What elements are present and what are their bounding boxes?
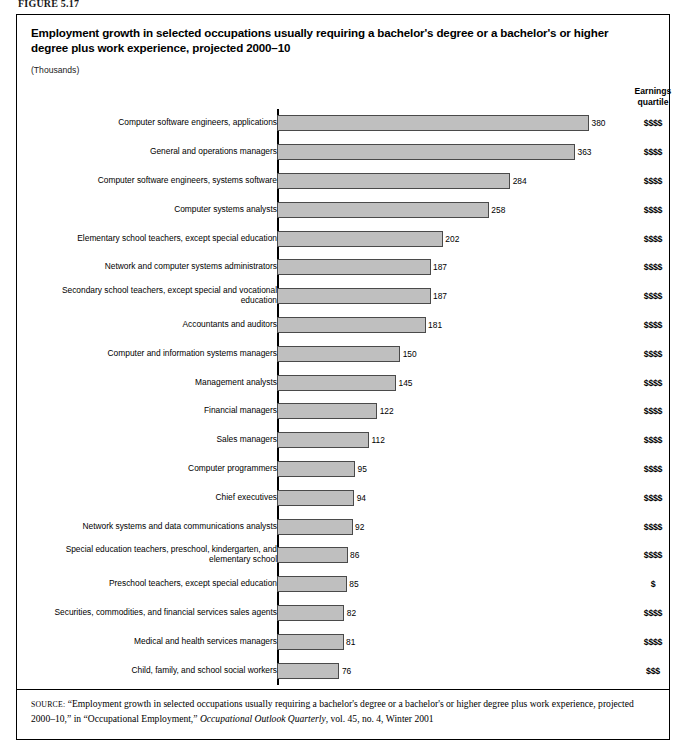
bar-wrapper: 145 (277, 375, 396, 391)
bar-value-label: 85 (349, 579, 358, 589)
bar (277, 432, 369, 448)
earnings-quartile-value: $$$$ (623, 291, 683, 301)
bar (277, 346, 400, 362)
bar-category-label: Accountants and auditors (27, 320, 277, 330)
bar-wrapper: 181 (277, 317, 426, 333)
chart-row: Computer programmers95$$$$ (17, 455, 671, 484)
bar-wrapper: 76 (277, 663, 339, 679)
earnings-quartile-value: $$$$ (623, 522, 683, 532)
chart-row: Computer software engineers, systems sof… (17, 167, 671, 196)
bar-wrapper: 82 (277, 605, 344, 621)
bar-wrapper: 112 (277, 432, 369, 448)
chart-row-inner: Financial managers122$$$$ (17, 397, 671, 426)
bar-wrapper: 202 (277, 231, 443, 247)
bar-category-label: Computer programmers (27, 464, 277, 474)
chart-row-inner: Special education teachers, preschool, k… (17, 541, 671, 570)
chart-row-inner: Computer and information systems manager… (17, 339, 671, 368)
chart-row-inner: Computer software engineers, systems sof… (17, 167, 671, 196)
bar (277, 317, 426, 333)
bar-value-label: 187 (433, 262, 447, 272)
chart-row: General and operations managers363$$$$ (17, 138, 671, 167)
earnings-quartile-value: $$$$ (623, 262, 683, 272)
figure-number-label: FIGURE 5.17 (18, 0, 79, 8)
bar (277, 202, 489, 218)
earnings-quartile-value: $$$$ (623, 550, 683, 560)
earnings-quartile-value: $$$$ (623, 234, 683, 244)
earnings-quartile-value: $ (623, 579, 683, 589)
bar-wrapper: 122 (277, 403, 377, 419)
bar (277, 231, 443, 247)
chart-row: Computer software engineers, application… (17, 109, 671, 138)
bar (277, 375, 396, 391)
source-note-journal: Occupational Outlook Quarterly (200, 713, 326, 724)
bar-value-label: 258 (491, 205, 505, 215)
bar-value-label: 81 (346, 637, 355, 647)
bar-wrapper: 94 (277, 490, 354, 506)
bar-category-label: Special education teachers, preschool, k… (27, 546, 277, 565)
bar-wrapper: 258 (277, 202, 489, 218)
source-note-text-part2: , vol. 45, no. 4, Winter 2001 (326, 713, 434, 724)
earnings-quartile-value: $$$ (623, 666, 683, 676)
bar-chart-plot-area: Computer software engineers, application… (17, 109, 671, 685)
bar-wrapper: 380 (277, 115, 589, 131)
bar-category-label: Securities, commodities, and financial s… (27, 608, 277, 618)
bar-wrapper: 85 (277, 576, 347, 592)
bar-wrapper: 187 (277, 288, 431, 304)
chart-row: Network and computer systems administrat… (17, 253, 671, 282)
bar (277, 173, 510, 189)
bar-category-label: Computer systems analysts (27, 205, 277, 215)
chart-row-inner: Computer software engineers, application… (17, 109, 671, 138)
bar-value-label: 82 (347, 608, 356, 618)
bar-value-label: 150 (403, 349, 417, 359)
earnings-quartile-value: $$$$ (623, 349, 683, 359)
chart-row: Computer and information systems manager… (17, 339, 671, 368)
earnings-quartile-value: $$$$ (623, 147, 683, 157)
chart-row: Computer systems analysts258$$$$ (17, 195, 671, 224)
bar (277, 605, 344, 621)
source-note-label: SOURCE: (31, 700, 65, 709)
bar-value-label: 76 (342, 666, 351, 676)
bar (277, 576, 347, 592)
bar (277, 259, 431, 275)
bar-wrapper: 150 (277, 346, 400, 362)
bar-value-label: 181 (428, 320, 442, 330)
figure-units-subtitle: (Thousands) (31, 65, 79, 75)
bar-wrapper: 363 (277, 144, 575, 160)
bar-value-label: 122 (380, 406, 394, 416)
chart-row-inner: Medical and health services managers81$$… (17, 627, 671, 656)
earnings-quartile-value: $$$$ (623, 637, 683, 647)
chart-row: Secondary school teachers, except specia… (17, 282, 671, 311)
bar-wrapper: 81 (277, 634, 344, 650)
earnings-quartile-value: $$$$ (623, 205, 683, 215)
bar-wrapper: 284 (277, 173, 510, 189)
chart-row-inner: Chief executives94$$$$ (17, 483, 671, 512)
bar-value-label: 363 (578, 147, 592, 157)
earnings-quartile-value: $$$$ (623, 406, 683, 416)
chart-row: Elementary school teachers, except speci… (17, 224, 671, 253)
bar-value-label: 284 (513, 176, 527, 186)
chart-row-inner: Elementary school teachers, except speci… (17, 224, 671, 253)
bar-wrapper: 86 (277, 547, 348, 563)
bar-value-label: 92 (355, 522, 364, 532)
chart-row: Medical and health services managers81$$… (17, 627, 671, 656)
bar (277, 115, 589, 131)
bar-category-label: Network systems and data communications … (27, 522, 277, 532)
bar (277, 288, 431, 304)
bar-category-label: Chief executives (27, 493, 277, 503)
bar-value-label: 112 (371, 435, 384, 445)
bar-category-label: General and operations managers (27, 147, 277, 157)
bar-category-label: Medical and health services managers (27, 637, 277, 647)
chart-row-inner: Secondary school teachers, except specia… (17, 282, 671, 311)
chart-row-inner: Accountants and auditors181$$$$ (17, 311, 671, 340)
bar-wrapper: 92 (277, 519, 353, 535)
chart-row-inner: Computer systems analysts258$$$$ (17, 195, 671, 224)
chart-row: Network systems and data communications … (17, 512, 671, 541)
earnings-quartile-value: $$$$ (623, 464, 683, 474)
bar (277, 547, 348, 563)
source-note-divider (17, 689, 669, 690)
bar-category-label: Preschool teachers, except special educa… (27, 579, 277, 589)
chart-row: Sales managers112$$$$ (17, 426, 671, 455)
earnings-quartile-value: $$$$ (623, 493, 683, 503)
chart-row-inner: Network systems and data communications … (17, 512, 671, 541)
bar-category-label: Financial managers (27, 407, 277, 417)
